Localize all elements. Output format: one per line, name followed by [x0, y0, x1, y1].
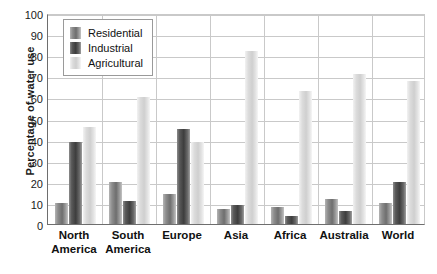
bar-agricultural-africa [299, 91, 312, 224]
x-axis-label-north-america: NorthAmerica [47, 228, 101, 256]
legend-label: Agricultural [88, 57, 143, 69]
bar-industrial-world [393, 182, 406, 224]
x-axis-label-asia: Asia [209, 228, 263, 242]
residential-swatch [70, 27, 81, 39]
y-tick-label: 60 [31, 93, 43, 105]
x-axis-label-world: World [371, 228, 425, 242]
bar-agricultural-asia [245, 51, 258, 224]
bar-residential-north-america [55, 203, 68, 224]
industrial-swatch [70, 42, 81, 54]
x-axis-label-africa: Africa [263, 228, 317, 242]
bar-agricultural-south-america [137, 97, 150, 224]
legend-label: Residential [88, 27, 142, 39]
y-axis-title: Percentage of water use [24, 21, 36, 201]
x-axis-label-europe: Europe [155, 228, 209, 242]
bar-agricultural-north-america [83, 127, 96, 224]
y-tick-label: 70 [31, 72, 43, 84]
bar-residential-africa [271, 207, 284, 224]
bar-residential-south-america [109, 182, 122, 224]
y-tick-label: 10 [31, 199, 43, 211]
bar-industrial-north-america [69, 142, 82, 224]
bar-agricultural-world [407, 81, 420, 224]
bar-agricultural-australia [353, 74, 366, 224]
bar-group-australia [318, 15, 372, 224]
y-tick-label: 90 [31, 30, 43, 42]
y-tick-label: 80 [31, 51, 43, 63]
bar-residential-europe [163, 194, 176, 224]
bar-group-africa [264, 15, 318, 224]
x-axis-labels: NorthAmericaSouthAmericaEuropeAsiaAfrica… [47, 228, 425, 272]
legend-label: Industrial [88, 42, 133, 54]
bar-group-asia [210, 15, 264, 224]
bar-residential-world [379, 203, 392, 224]
y-tick-label: 20 [31, 178, 43, 190]
bar-industrial-south-america [123, 201, 136, 224]
bar-industrial-australia [339, 211, 352, 224]
bar-group-world [372, 15, 426, 224]
y-tick-label: 0 [37, 220, 43, 232]
bar-residential-asia [217, 209, 230, 224]
y-tick-label: 100 [25, 9, 43, 21]
y-tick-label: 40 [31, 136, 43, 148]
bar-agricultural-europe [191, 142, 204, 224]
water-use-bar-chart: Percentage of water use 0102030405060708… [0, 0, 437, 274]
x-axis-label-australia: Australia [317, 228, 371, 242]
bar-group-europe [156, 15, 210, 224]
y-tick-label: 50 [31, 115, 43, 127]
legend-item-agricultural: Agricultural [70, 55, 143, 70]
agricultural-swatch [70, 57, 81, 69]
bar-industrial-asia [231, 205, 244, 224]
legend-item-residential: Residential [70, 25, 143, 40]
bar-residential-australia [325, 199, 338, 224]
x-axis-label-south-america: SouthAmerica [101, 228, 155, 256]
legend-item-industrial: Industrial [70, 40, 143, 55]
y-tick-label: 30 [31, 157, 43, 169]
bar-industrial-africa [285, 216, 298, 224]
bar-industrial-europe [177, 129, 190, 224]
chart-legend: ResidentialIndustrialAgricultural [63, 19, 153, 76]
